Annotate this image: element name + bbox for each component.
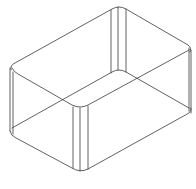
back-edges (12, 7, 189, 128)
left-corner (10, 68, 13, 134)
right-corner (189, 48, 191, 113)
top-rim (11, 7, 191, 107)
box-wireframe-diagram (0, 0, 196, 189)
bottom-edge (10, 108, 191, 171)
box-drawing (0, 0, 196, 189)
front-corner (73, 106, 88, 171)
